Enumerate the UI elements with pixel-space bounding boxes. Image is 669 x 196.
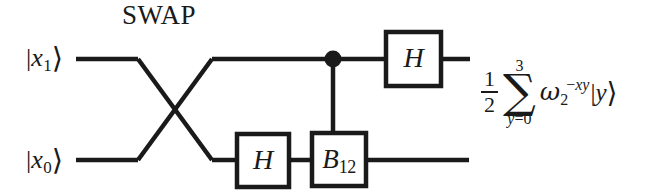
coefficient-fraction: 1 2 [481, 68, 498, 117]
sum-lower-eq: =0 [514, 110, 531, 127]
ket-subscript: 1 [43, 56, 52, 75]
gate-label-b12-subscript: 12 [339, 157, 356, 177]
sum-lower-limit: y=0 [507, 111, 531, 127]
swap-label: SWAP [122, 2, 196, 29]
input-label-x1: |x1⟩ [26, 44, 63, 74]
summation: 3 ∑ y=0 [503, 58, 536, 127]
control-dot-icon [325, 51, 342, 68]
omega-term: ω2−xy [540, 76, 590, 109]
gate-label-b12: B12 [312, 146, 366, 176]
gate-label-hadamard-bottom: H [237, 146, 289, 174]
gate-label-b12-letter: B [322, 144, 339, 174]
ket-angle: ⟩ [52, 42, 63, 74]
output-ket-angle: ⟩ [607, 77, 618, 108]
fraction-numerator: 1 [481, 68, 498, 91]
sum-sigma-icon: ∑ [503, 73, 536, 111]
output-ket-symbol: y [595, 78, 606, 105]
quantum-circuit-figure: SWAP |x1⟩ |x0⟩ H H B12 1 2 3 ∑ y=0 ω2−xy… [0, 0, 669, 196]
omega-exponent-sign: − [566, 76, 575, 93]
omega-subscript: 2 [560, 91, 568, 108]
ket-symbol: x [31, 145, 43, 174]
ket-symbol: x [31, 43, 43, 72]
ket-subscript: 0 [43, 158, 52, 177]
output-state-expression: 1 2 3 ∑ y=0 ω2−xy |y⟩ [481, 58, 618, 127]
ket-angle: ⟩ [52, 144, 63, 176]
omega-symbol: ω [540, 77, 560, 106]
output-ket: |y⟩ [590, 76, 617, 109]
omega-exponent: −xy [566, 76, 589, 93]
fraction-denominator: 2 [481, 93, 498, 116]
input-label-x0: |x0⟩ [26, 146, 63, 176]
gate-label-hadamard-top: H [386, 44, 441, 72]
omega-exponent-value: xy [575, 76, 589, 93]
